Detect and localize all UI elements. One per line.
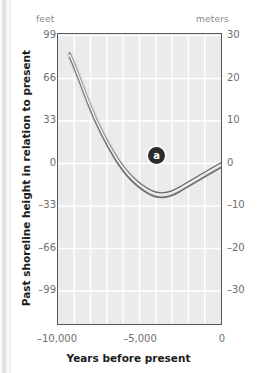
x-tick-1: –5,000 xyxy=(110,333,170,344)
y-axis-left-unit-label: feet xyxy=(36,14,55,24)
shoreline-curve-upper xyxy=(70,53,221,193)
x-tick-2: 0 xyxy=(192,333,252,344)
page-gutter-edge xyxy=(9,0,12,373)
y-tick-right-1: 20 xyxy=(227,72,240,83)
x-tick-0: –10,000 xyxy=(27,333,87,344)
y-tick-left-3: 0 xyxy=(50,157,56,168)
y-tick-right-4: –10 xyxy=(227,199,245,210)
x-axis-title: Years before present xyxy=(0,352,257,364)
gridlines-vertical xyxy=(74,34,204,324)
shoreline-curve-band xyxy=(70,55,221,195)
y-tick-left-0: 99 xyxy=(43,29,56,40)
y-tick-left-2: 33 xyxy=(43,114,56,125)
y-tick-left-4: –33 xyxy=(38,199,56,210)
y-tick-right-3: 0 xyxy=(227,157,233,168)
y-tick-right-6: –30 xyxy=(227,284,245,295)
plot-area xyxy=(57,33,222,325)
y-axis-right-unit-label: meters xyxy=(196,14,229,24)
chart-canvas xyxy=(58,34,221,324)
y-axis-title: Past shoreline height in relation to pre… xyxy=(20,48,32,308)
y-tick-left-5: –66 xyxy=(38,242,56,253)
figure-root: feet meters Past shoreline height in rel… xyxy=(0,0,257,373)
y-tick-right-5: –20 xyxy=(227,242,245,253)
y-tick-left-1: 66 xyxy=(43,72,56,83)
y-tick-right-0: 30 xyxy=(227,29,240,40)
y-tick-right-2: 10 xyxy=(227,114,240,125)
shoreline-curve-shadow xyxy=(70,55,221,195)
callout-badge-a: a xyxy=(148,147,165,164)
y-tick-left-6: –99 xyxy=(38,284,56,295)
